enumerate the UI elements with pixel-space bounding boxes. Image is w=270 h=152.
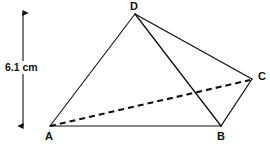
vertex-label-d: D [130,1,138,12]
edge-D-B [135,14,221,126]
vertex-label-b: B [217,131,225,142]
geometry-figure: 6.1 cm A B C D [0,0,270,152]
dimension-label-height: 6.1 cm [4,61,39,74]
figure-canvas [0,0,270,152]
edge-D-C [135,14,252,79]
vertex-label-a: A [45,131,53,142]
vertex-label-c: C [258,71,266,82]
